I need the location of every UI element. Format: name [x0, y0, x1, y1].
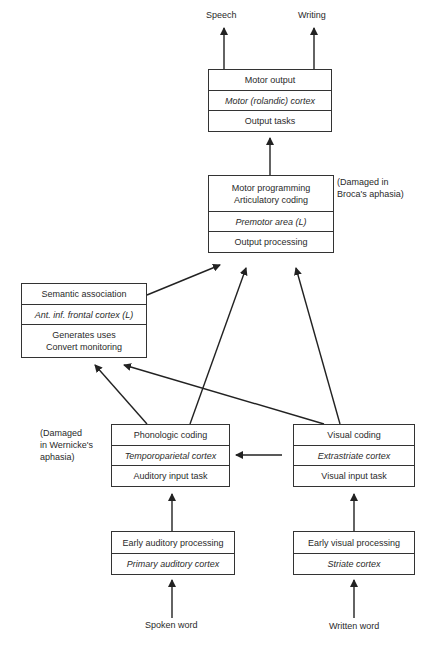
- motor-programming-box: Motor programming Articulatory coding Pr…: [208, 175, 334, 253]
- motor-output-title: Motor output: [209, 70, 331, 90]
- semantic-box: Semantic association Ant. inf. frontal c…: [21, 283, 147, 358]
- early-auditory-title: Early auditory processing: [112, 532, 234, 553]
- phonologic-region: Temporoparietal cortex: [112, 445, 229, 465]
- motor-programming-title-line1: Motor programming: [232, 182, 311, 194]
- motor-programming-title-line2: Articulatory coding: [234, 194, 308, 206]
- phonologic-box: Phonologic coding Temporoparietal cortex…: [111, 424, 230, 487]
- motor-programming-title: Motor programming Articulatory coding: [209, 176, 333, 211]
- early-auditory-box: Early auditory processing Primary audito…: [111, 531, 235, 575]
- semantic-tasks: Generates uses Convert monitoring: [22, 324, 146, 356]
- visual-region: Extrastriate cortex: [294, 445, 414, 465]
- wernicke-note-line2: in Wernicke's: [40, 439, 93, 451]
- output-label-writing: Writing: [298, 9, 326, 21]
- phonologic-task: Auditory input task: [112, 465, 229, 485]
- phonologic-title: Phonologic coding: [112, 425, 229, 445]
- motor-output-box: Motor output Motor (rolandic) cortex Out…: [208, 69, 332, 132]
- early-visual-title: Early visual processing: [294, 532, 414, 553]
- broca-note: (Damaged in Broca's aphasia): [337, 176, 404, 200]
- input-label-written-word: Written word: [329, 620, 379, 632]
- semantic-task-1: Generates uses: [52, 329, 116, 341]
- semantic-task-2: Convert monitoring: [46, 341, 122, 353]
- input-label-spoken-word: Spoken word: [145, 619, 198, 631]
- motor-programming-task: Output processing: [209, 231, 333, 251]
- output-label-speech: Speech: [206, 9, 237, 21]
- wernicke-note: (Damaged in Wernicke's aphasia): [40, 427, 93, 463]
- broca-note-line1: (Damaged in: [337, 176, 404, 188]
- motor-output-region: Motor (rolandic) cortex: [209, 90, 331, 110]
- semantic-title: Semantic association: [22, 284, 146, 304]
- motor-programming-region: Premotor area (L): [209, 211, 333, 231]
- visual-title: Visual coding: [294, 425, 414, 445]
- early-visual-box: Early visual processing Striate cortex: [293, 531, 415, 575]
- semantic-region: Ant. inf. frontal cortex (L): [22, 304, 146, 324]
- wernicke-note-line1: (Damaged: [40, 427, 93, 439]
- motor-output-task: Output tasks: [209, 110, 331, 130]
- visual-task: Visual input task: [294, 465, 414, 485]
- wernicke-note-line3: aphasia): [40, 451, 93, 463]
- early-visual-region: Striate cortex: [294, 553, 414, 573]
- broca-note-line2: Broca's aphasia): [337, 188, 404, 200]
- early-auditory-region: Primary auditory cortex: [112, 553, 234, 573]
- visual-box: Visual coding Extrastriate cortex Visual…: [293, 424, 415, 487]
